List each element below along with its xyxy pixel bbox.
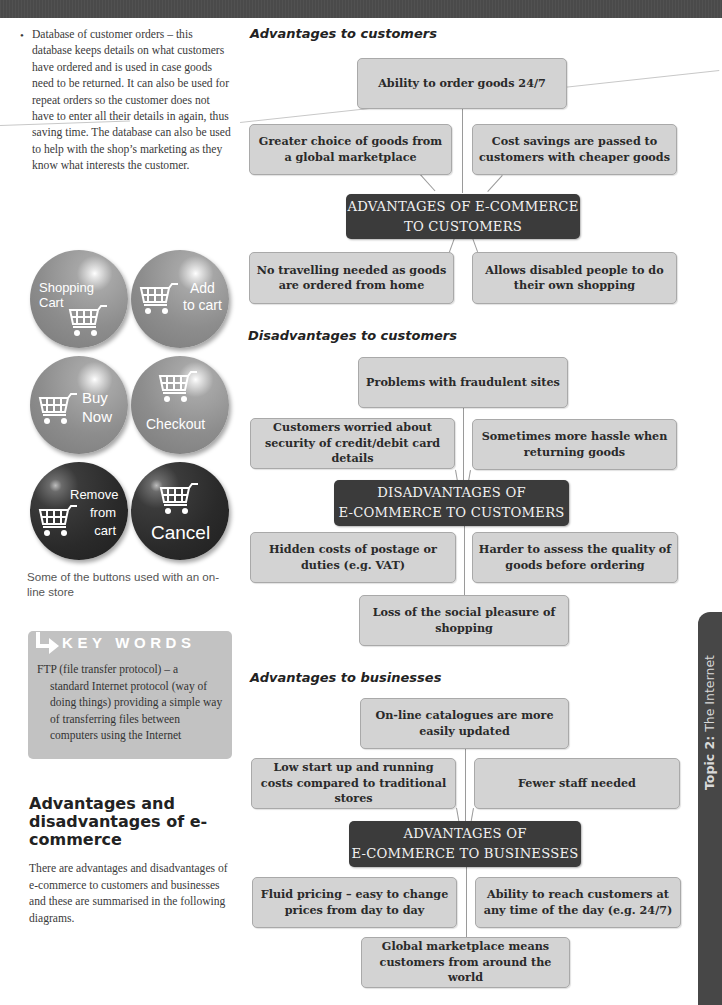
buy-now-button-image: Buy Now bbox=[30, 356, 128, 454]
cancel-button-image: Cancel bbox=[131, 462, 229, 560]
cart-icon bbox=[68, 302, 108, 338]
diagram-box: Fluid pricing – easy to change prices fr… bbox=[252, 877, 457, 928]
diagram-box: No travelling needed as goods are ordere… bbox=[249, 252, 454, 304]
diagram-box: Allows disabled people to do their own s… bbox=[472, 252, 677, 304]
diagram-box: On-line catalogues are more easily updat… bbox=[360, 698, 569, 749]
diagram-heading: Advantages to customers bbox=[250, 26, 437, 41]
diagram-hub: ADVANTAGES OFE-COMMERCE TO BUSINESSES bbox=[349, 821, 581, 867]
diagram-box: Greater choice of goods from a global ma… bbox=[249, 124, 452, 175]
image-caption: Some of the buttons used with an on-line… bbox=[27, 569, 237, 599]
key-words-title: KEY WORDS bbox=[62, 634, 196, 651]
remove-from-cart-button-image: Remove from cart bbox=[30, 462, 128, 560]
connector-line bbox=[449, 238, 455, 252]
diagram-box: Loss of the social pleasure of shopping bbox=[359, 595, 569, 646]
key-words-definition: FTP (file transfer protocol) – a standar… bbox=[37, 661, 227, 744]
diagram-box: Low start up and running costs compared … bbox=[251, 758, 456, 809]
section-body: There are advantages and disadvantages o… bbox=[29, 861, 239, 927]
bullet-text: Database of customer orders – this datab… bbox=[32, 28, 231, 172]
diagram-heading: Advantages to businesses bbox=[250, 670, 441, 685]
connector-line bbox=[462, 108, 463, 193]
connector-line bbox=[464, 525, 465, 595]
cart-icon bbox=[139, 280, 179, 316]
arrow-right-icon bbox=[34, 630, 62, 656]
add-to-cart-button-image: Add to cart bbox=[131, 250, 229, 348]
diagram-box: Cost savings are passed to customers wit… bbox=[472, 124, 677, 175]
diagram-box: Global marketplace means customers from … bbox=[361, 937, 570, 988]
diagram-box: Sometimes more hassle when returning goo… bbox=[472, 419, 677, 470]
shopping-cart-button-image: Shopping Cart bbox=[30, 250, 128, 348]
connector-line bbox=[471, 808, 474, 822]
connector-line bbox=[420, 174, 435, 191]
checkout-button-image: Checkout bbox=[131, 356, 229, 454]
connector-line bbox=[463, 407, 464, 482]
connector-line bbox=[487, 175, 502, 192]
cart-icon bbox=[159, 480, 199, 516]
section-title: Advantages and disadvantages of e-commer… bbox=[29, 795, 239, 849]
bullet-paragraph: • Database of customer orders – this dat… bbox=[32, 27, 232, 175]
bullet-icon: • bbox=[20, 27, 24, 43]
diagram-box: Fewer staff needed bbox=[474, 758, 680, 809]
diagram-box: Harder to assess the quality of goods be… bbox=[472, 532, 678, 583]
diagram-box: Ability to order goods 24/7 bbox=[357, 58, 567, 109]
diagram-box: Hidden costs of postage or duties (e.g. … bbox=[250, 532, 456, 583]
diagram-hub: ADVANTAGES OF E-COMMERCETO CUSTOMERS bbox=[346, 194, 580, 239]
diagram-heading: Disadvantages to customers bbox=[248, 328, 457, 343]
cart-icon bbox=[158, 368, 198, 404]
diagram-hub: DISADVANTAGES OFE-COMMERCE TO CUSTOMERS bbox=[334, 480, 569, 526]
cart-icon bbox=[38, 390, 78, 426]
chapter-side-tab-label: Topic 2: The Internet bbox=[698, 612, 722, 792]
diagram-box: Problems with fraudulent sites bbox=[358, 357, 568, 408]
diagram-box: Ability to reach customers at any time o… bbox=[475, 877, 681, 928]
diagram-box: Customers worried about security of cred… bbox=[250, 418, 455, 469]
connector-line bbox=[456, 808, 459, 822]
connector-line bbox=[465, 748, 466, 823]
connector-line bbox=[472, 238, 478, 252]
connector-line bbox=[466, 865, 467, 937]
page-top-bar bbox=[0, 0, 722, 18]
